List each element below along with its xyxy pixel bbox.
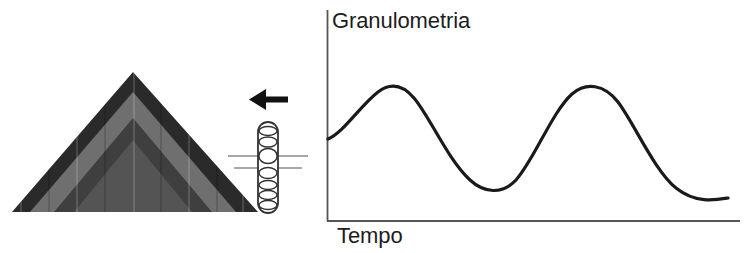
delta-diagram-svg — [0, 0, 320, 253]
core-sampler-tube — [258, 122, 278, 213]
flow-direction-arrow — [249, 89, 288, 110]
y-axis-label: Granulometria — [332, 10, 470, 32]
core-segment-3-center — [259, 149, 277, 164]
granulometry-chart-panel: Granulometria — [320, 0, 745, 253]
delta-diagram-panel — [0, 0, 320, 253]
granulometry-chart-svg — [320, 0, 745, 253]
sediment-triangle — [12, 60, 258, 220]
arrow-head — [249, 89, 266, 110]
granulometry-curve — [328, 86, 728, 200]
figure-root: Granulometria Tempo — [0, 0, 745, 253]
x-axis-label: Tempo — [337, 225, 403, 247]
